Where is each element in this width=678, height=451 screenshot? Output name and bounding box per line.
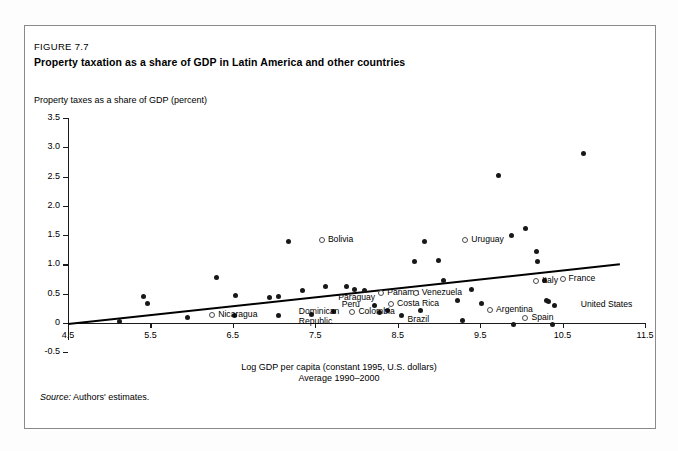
x-tick — [150, 323, 151, 328]
data-point-marker — [560, 276, 566, 282]
data-point — [323, 284, 328, 289]
data-point — [117, 319, 122, 324]
x-axis-line — [68, 323, 645, 324]
data-point — [479, 301, 484, 306]
data-point-label: Republic — [299, 316, 332, 326]
data-point — [436, 258, 441, 263]
data-point-marker — [209, 312, 215, 318]
y-tick-label: 3.5 — [30, 112, 60, 122]
x-tick-label: 10.5 — [543, 330, 583, 340]
data-point — [233, 293, 238, 298]
data-point — [509, 233, 514, 238]
y-tick — [63, 294, 68, 295]
data-point — [422, 239, 427, 244]
y-tick-label: 3.0 — [30, 141, 60, 151]
y-tick — [63, 118, 68, 119]
data-point — [141, 294, 146, 299]
x-tick — [480, 323, 481, 328]
y-tick — [63, 352, 68, 353]
data-point — [214, 275, 219, 280]
y-tick — [63, 235, 68, 236]
data-point-label: Brazil — [408, 314, 430, 324]
data-point-label: Uruguay — [471, 234, 503, 244]
data-point-label: Venezuela — [422, 287, 462, 297]
data-point — [286, 239, 291, 244]
data-point — [455, 298, 460, 303]
data-point — [534, 249, 539, 254]
data-point-label: Costa Rica — [397, 298, 439, 308]
y-axis-line — [68, 118, 69, 340]
y-tick-label: 1.0 — [30, 258, 60, 268]
data-point — [460, 318, 465, 323]
data-point-marker — [522, 315, 528, 321]
data-point — [412, 259, 417, 264]
data-point-marker — [349, 309, 355, 315]
data-point — [441, 278, 446, 283]
x-axis-title: Log GDP per capita (constant 1995, U.S. … — [0, 362, 678, 384]
x-tick-label: 8.5 — [378, 330, 418, 340]
x-tick-label: 5.5 — [130, 330, 170, 340]
data-point — [276, 294, 281, 299]
y-tick-label: 1.5 — [30, 229, 60, 239]
data-point — [469, 287, 474, 292]
data-point — [344, 284, 349, 289]
data-point-label: Argentina — [496, 304, 533, 314]
x-axis-title-line1: Log GDP per capita (constant 1995, U.S. … — [0, 362, 678, 373]
x-tick-label: 6.5 — [213, 330, 253, 340]
source-note: Source: Authors' estimates. — [40, 392, 149, 402]
x-tick-label: 7.5 — [295, 330, 335, 340]
y-tick-label: -0.5 — [30, 346, 60, 356]
data-point — [399, 313, 404, 318]
x-tick — [563, 323, 564, 328]
y-tick — [63, 206, 68, 207]
y-tick-label: 0 — [30, 317, 60, 327]
source-label: Source: — [40, 392, 71, 402]
x-tick-label: 9.5 — [460, 330, 500, 340]
data-point — [546, 299, 551, 304]
data-point-marker — [413, 290, 419, 296]
data-point-label: United States — [581, 299, 633, 309]
x-tick — [233, 323, 234, 328]
data-point — [552, 303, 557, 308]
y-tick-label: 2.5 — [30, 171, 60, 181]
data-point-marker — [462, 237, 468, 243]
data-point — [523, 226, 528, 231]
data-point-marker — [378, 290, 384, 296]
data-point — [581, 151, 586, 156]
x-tick — [398, 323, 399, 328]
x-tick-label: 4.5 — [48, 330, 88, 340]
data-point — [300, 288, 305, 293]
data-point-label: Nicaragua — [218, 309, 257, 319]
data-point-label: Bolivia — [328, 234, 353, 244]
x-tick-label: 11.5 — [625, 330, 665, 340]
data-point — [145, 301, 150, 306]
data-point — [185, 315, 190, 320]
source-text: Authors' estimates. — [73, 392, 149, 402]
y-tick — [63, 177, 68, 178]
data-point — [511, 322, 516, 327]
data-point — [496, 173, 501, 178]
data-point-label: France — [569, 273, 596, 283]
y-tick — [63, 264, 68, 265]
data-point-label: Spain — [531, 312, 553, 322]
y-tick — [63, 147, 68, 148]
data-point — [267, 295, 272, 300]
data-point-marker — [319, 237, 325, 243]
data-point — [276, 313, 281, 318]
figure-page: FIGURE 7.7 Property taxation as a share … — [0, 0, 678, 451]
data-point-marker — [533, 278, 539, 284]
y-tick-label: 2.0 — [30, 200, 60, 210]
data-point-label: Peru — [342, 299, 360, 309]
data-point — [418, 308, 423, 313]
data-point — [535, 259, 540, 264]
data-point — [550, 322, 555, 327]
x-axis-title-line2: Average 1990–2000 — [0, 373, 678, 384]
data-point-label: Colombia — [358, 306, 394, 316]
y-tick-label: 0.5 — [30, 288, 60, 298]
x-tick — [645, 323, 646, 328]
data-point-label: Italy — [542, 275, 558, 285]
data-point-marker — [487, 307, 493, 313]
